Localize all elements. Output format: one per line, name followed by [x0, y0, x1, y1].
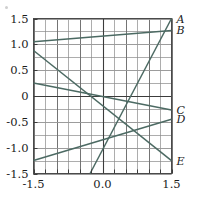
series-line-d: [34, 119, 172, 160]
series-line-b: [34, 30, 172, 41]
y-tick-label: -0.5: [6, 115, 28, 129]
y-tick-label: -1.0: [6, 141, 28, 155]
x-axis-tick-labels: -1.50.01.5: [22, 177, 180, 191]
y-tick-label: 1.0: [10, 37, 28, 51]
x-tick-label: 1.5: [162, 177, 180, 191]
y-tick-label: 0.5: [10, 63, 28, 77]
chart-container: 1.51.00.50-0.5-1.0-1.5 -1.50.01.5 ABCDE: [0, 0, 203, 197]
y-tick-label: 1.5: [10, 12, 28, 26]
series-end-labels: ABCDE: [176, 13, 186, 168]
y-axis-tick-labels: 1.51.00.50-0.5-1.0-1.5: [6, 12, 28, 181]
image-artifact-speck: [5, 6, 8, 9]
x-tick-label: -1.5: [22, 177, 44, 191]
series-label-e: E: [176, 155, 185, 168]
series-label-b: B: [176, 24, 185, 37]
x-tick-label: 0.0: [93, 177, 111, 191]
series-label-d: D: [176, 113, 186, 126]
y-tick-label: 0: [21, 89, 28, 103]
line-chart-plot: 1.51.00.50-0.5-1.0-1.5 -1.50.01.5 ABCDE: [0, 0, 203, 197]
